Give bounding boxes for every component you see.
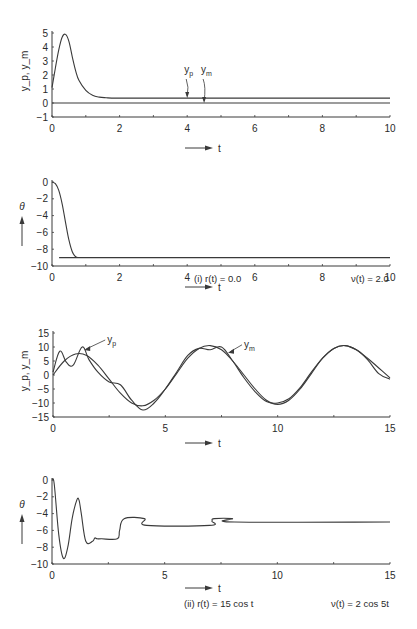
x-tick-label: 4 (184, 123, 190, 134)
annotation-y-p: yp (107, 334, 116, 348)
y-tick-label: 4 (42, 42, 48, 53)
series-line-y_m (53, 346, 390, 406)
y-tick-label: 2 (42, 70, 48, 81)
y-tick-label: 5 (43, 356, 49, 367)
y-tick-label: −10 (31, 261, 48, 272)
series-line-y_p (53, 346, 390, 410)
y-tick-label: −10 (31, 559, 48, 570)
caption-i-left: (i) r(t) = 0.0 (194, 273, 241, 284)
arrowhead-icon (205, 586, 213, 591)
y-axis-label: θ (19, 499, 25, 510)
arrowhead-icon (20, 514, 25, 522)
arrowhead-icon (20, 216, 25, 224)
series-line- (52, 182, 390, 258)
x-tick-label: 8 (320, 272, 326, 283)
y-tick-label: −6 (37, 227, 49, 238)
x-tick-label: 6 (252, 272, 258, 283)
annotation-y-p: yp (184, 64, 193, 78)
caption-ii-right: ν(t) = 2 cos 5t (331, 598, 389, 609)
x-axis-label: t (218, 583, 221, 594)
x-axis-label: t (218, 438, 221, 449)
x-tick-label: 2 (117, 123, 123, 134)
x-tick-label: 10 (272, 423, 284, 434)
x-tick-label: 15 (384, 423, 396, 434)
y-tick-label: −4 (37, 508, 49, 519)
x-tick-label: 10 (384, 123, 396, 134)
figure-canvas: 0246810−1012345ty_p, y_mypym0246810−10−8… (0, 0, 417, 629)
y-tick-label: −10 (32, 398, 49, 409)
y-tick-label: −8 (37, 244, 49, 255)
y-axis-label: θ (19, 201, 25, 212)
arrowhead-icon (185, 92, 189, 98)
arrowhead-icon (205, 285, 213, 290)
y-tick-label: −2 (37, 491, 49, 502)
annotation-y-m: ym (201, 64, 212, 77)
arrowhead-icon (202, 97, 206, 103)
x-tick-label: 5 (162, 570, 168, 581)
x-tick-label: 10 (272, 570, 284, 581)
y-axis-label: y_p, y_m (19, 351, 30, 392)
x-tick-label: 5 (163, 423, 169, 434)
x-tick-label: 2 (117, 272, 123, 283)
y-tick-label: −1 (37, 112, 49, 123)
x-tick-label: 0 (49, 570, 55, 581)
y-tick-label: 1 (42, 84, 48, 95)
y-tick-label: −8 (37, 542, 49, 553)
x-tick-label: 4 (184, 272, 190, 283)
arrowhead-icon (205, 441, 213, 446)
y-tick-label: 0 (42, 177, 48, 188)
caption-ii-left: (ii) r(t) = 15 cos t (184, 598, 253, 609)
y-tick-label: 3 (42, 56, 48, 67)
y-tick-label: 0 (42, 98, 48, 109)
x-tick-label: 0 (49, 123, 55, 134)
y-axis-label: y_p, y_m (19, 51, 30, 92)
series-line- (52, 479, 390, 559)
y-tick-label: 10 (38, 342, 50, 353)
y-tick-label: −15 (32, 412, 49, 423)
x-axis-label: t (218, 143, 221, 154)
chart-plot-ii-output: 051015−15−10−5051015ty_p, y_mypym (19, 328, 396, 449)
arrowhead-icon (205, 146, 213, 151)
chart-plot-ii-theta: 051015−10−8−6−4−20tθ (19, 475, 396, 594)
y-tick-label: 5 (42, 28, 48, 39)
arrowhead-icon (228, 349, 234, 354)
y-tick-label: −6 (37, 525, 49, 536)
x-tick-label: 0 (49, 272, 55, 283)
series-line-y_p (52, 34, 390, 98)
y-tick-label: 0 (43, 370, 49, 381)
x-tick-label: 6 (252, 123, 258, 134)
x-tick-label: 8 (320, 123, 326, 134)
x-tick-label: 0 (50, 423, 56, 434)
x-tick-label: 15 (384, 570, 396, 581)
caption-i-right: ν(t) = 2.0 (351, 273, 389, 284)
y-tick-label: −5 (38, 384, 50, 395)
y-tick-label: −2 (37, 193, 49, 204)
y-tick-label: −4 (37, 210, 49, 221)
annotation-y-m: ym (244, 339, 255, 352)
y-tick-label: 0 (42, 475, 48, 486)
y-tick-label: 15 (38, 328, 50, 339)
chart-plot-i-output: 0246810−1012345ty_p, y_mypym (19, 28, 396, 154)
